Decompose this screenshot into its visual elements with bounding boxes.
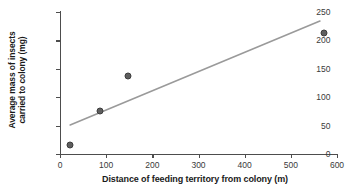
y-tick-150 xyxy=(56,69,60,70)
plot-area: 050100150200250 0100200300400500600 xyxy=(60,12,337,154)
y-tick-100 xyxy=(56,97,60,98)
trend-line xyxy=(60,12,337,154)
x-axis-title: Distance of feeding territory from colon… xyxy=(45,174,345,184)
y-tick-label-200: 200 xyxy=(316,35,330,45)
y-tick-label-250: 250 xyxy=(316,7,330,17)
x-tick-label-400: 400 xyxy=(238,160,252,170)
data-point-2 xyxy=(97,107,104,114)
x-tick-100 xyxy=(106,154,107,158)
y-axis-title-line-2: carried to colony (mg) xyxy=(17,31,27,128)
x-tick-label-0: 0 xyxy=(58,160,63,170)
x-tick-label-600: 600 xyxy=(330,160,344,170)
x-tick-600 xyxy=(337,154,338,158)
y-tick-250 xyxy=(56,12,60,13)
y-tick-label-50: 50 xyxy=(321,121,330,131)
x-tick-400 xyxy=(245,154,246,158)
y-axis-title-line-1: Average mass of insects xyxy=(7,31,17,128)
x-tick-label-500: 500 xyxy=(284,160,298,170)
data-point-4 xyxy=(321,30,328,37)
data-point-1 xyxy=(67,141,74,148)
data-point-3 xyxy=(124,73,131,80)
x-tick-label-300: 300 xyxy=(191,160,205,170)
y-tick-50 xyxy=(56,126,60,127)
y-axis-title: Average mass of insects carried to colon… xyxy=(0,0,34,160)
y-tick-0 xyxy=(56,154,60,155)
y-tick-label-0: 0 xyxy=(326,149,331,159)
x-tick-label-200: 200 xyxy=(145,160,159,170)
x-tick-500 xyxy=(291,154,292,158)
y-tick-200 xyxy=(56,40,60,41)
scatter-chart-figure: Average mass of insects carried to colon… xyxy=(0,0,353,192)
x-tick-0 xyxy=(60,154,61,158)
y-tick-label-150: 150 xyxy=(316,64,330,74)
x-tick-200 xyxy=(152,154,153,158)
x-tick-300 xyxy=(199,154,200,158)
x-tick-label-100: 100 xyxy=(99,160,113,170)
y-tick-label-100: 100 xyxy=(316,92,330,102)
